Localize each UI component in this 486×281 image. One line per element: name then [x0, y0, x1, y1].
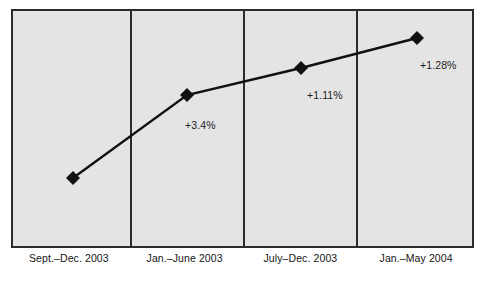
- x-tick-label-2: Jan.–June 2003: [127, 252, 243, 272]
- plot-area: +3.4% +1.11% +1.28%: [11, 9, 474, 248]
- data-point-marker-3: [294, 61, 308, 75]
- data-point-label-4: +1.28%: [420, 59, 457, 71]
- series-line-group: [13, 11, 472, 246]
- x-axis-tick-labels: Sept.–Dec. 2003 Jan.–June 2003 July–Dec.…: [11, 252, 474, 272]
- series-line: [73, 38, 417, 178]
- x-tick-label-3: July–Dec. 2003: [243, 252, 359, 272]
- x-tick-label-4: Jan.–May 2004: [358, 252, 474, 272]
- data-point-label-2: +3.4%: [185, 119, 216, 131]
- line-chart-figure: +3.4% +1.11% +1.28% Sept.–Dec. 2003 Jan.…: [0, 0, 486, 281]
- data-point-marker-4: [410, 31, 424, 45]
- data-point-label-3: +1.11%: [307, 89, 343, 101]
- x-tick-label-1: Sept.–Dec. 2003: [11, 252, 127, 272]
